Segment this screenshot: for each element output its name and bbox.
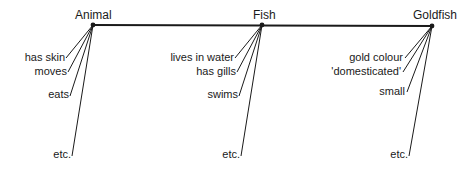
attribute-label: gold colour <box>349 51 403 63</box>
node-title-animal: Animal <box>75 9 112 21</box>
attribute-label: etc. <box>390 148 408 160</box>
node-title-goldfish: Goldfish <box>413 9 457 21</box>
goldfish-node-dot <box>430 24 435 29</box>
animal-node-dot <box>91 23 96 28</box>
goldfish-attribute-lines <box>403 26 432 156</box>
attribute-label: eats <box>48 88 69 100</box>
attribute-label: etc. <box>53 148 71 160</box>
node-title-fish: Fish <box>253 9 276 21</box>
attribute-label: has gills <box>196 65 236 77</box>
animal-attribute-lines <box>66 25 93 156</box>
attribute-label: has skin <box>25 51 65 63</box>
attribute-label: small <box>379 85 405 97</box>
attribute-label: etc. <box>222 148 240 160</box>
fish-node-dot <box>260 23 265 28</box>
attribute-label: moves <box>35 65 67 77</box>
fish-attribute-lines <box>235 25 262 156</box>
attribute-label: lives in water <box>170 51 234 63</box>
attribute-label: swims <box>207 88 238 100</box>
attribute-label: 'domesticated' <box>331 65 401 77</box>
